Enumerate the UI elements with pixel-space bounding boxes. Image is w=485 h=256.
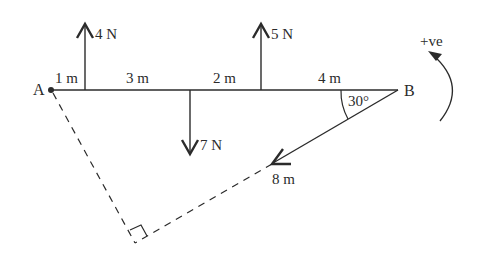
moment-diagram: A B 1 m 3 m 2 m 4 m 4 N 7 N 5 N 8 m 30° … [0, 0, 485, 256]
force-label-7n: 7 N [200, 138, 222, 153]
force-7n-arrow-icon [182, 90, 198, 154]
diagram-drawing [0, 0, 485, 256]
force-label-4n: 4 N [95, 27, 117, 42]
point-a-label: A [33, 82, 45, 98]
force-5n-arrow-icon [253, 24, 269, 90]
force-diagonal-arrow-icon [272, 90, 398, 164]
force-label-diagonal: 8 m [272, 172, 295, 187]
perpendicular-dashed [53, 93, 135, 243]
segment-label-1: 1 m [55, 71, 78, 86]
line-of-action-dashed [135, 164, 272, 243]
angle-label: 30° [348, 94, 369, 109]
anticlockwise-arrow-icon [428, 51, 452, 121]
segment-label-2: 3 m [126, 71, 149, 86]
segment-label-3: 2 m [213, 71, 236, 86]
point-a-dot [48, 87, 54, 93]
right-angle-marker-icon [130, 225, 147, 236]
point-b-label: B [404, 83, 415, 99]
force-4n-arrow-icon [77, 24, 93, 90]
angle-arc-icon [341, 90, 348, 119]
sign-convention-label: +ve [420, 34, 443, 49]
segment-label-4: 4 m [318, 71, 341, 86]
force-label-5n: 5 N [271, 27, 293, 42]
